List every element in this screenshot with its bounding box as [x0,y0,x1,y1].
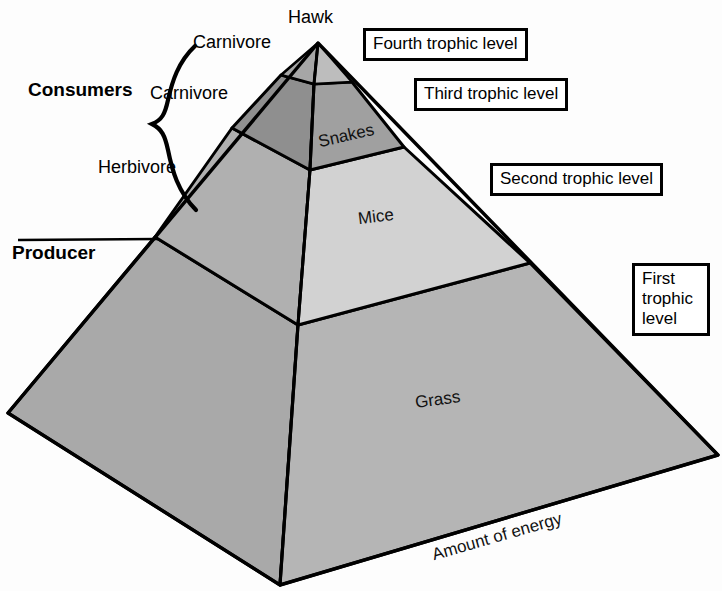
trophic-box-first-line1: First [642,269,700,289]
level-label-herbivore: Herbivore [98,158,176,177]
trophic-box-second: Second trophic level [490,163,663,196]
apex-label-hawk: Hawk [288,8,333,27]
diagram-canvas: Consumers Carnivore Carnivore Herbivore … [0,0,722,591]
consumers-brace-icon [152,46,196,210]
producer-leader-line [18,239,158,240]
level-label-carnivore-mid: Carnivore [150,84,228,103]
trophic-box-fourth: Fourth trophic level [363,28,528,61]
trophic-box-first: First trophic level [632,263,710,336]
level-label-carnivore-top: Carnivore [193,33,271,52]
tier4-right-face [314,43,352,84]
trophic-box-first-line3: level [642,309,700,329]
trophic-box-third: Third trophic level [414,78,568,111]
trophic-box-first-line2: trophic [642,289,700,309]
producer-label: Producer [12,243,95,263]
consumers-label: Consumers [28,80,133,100]
